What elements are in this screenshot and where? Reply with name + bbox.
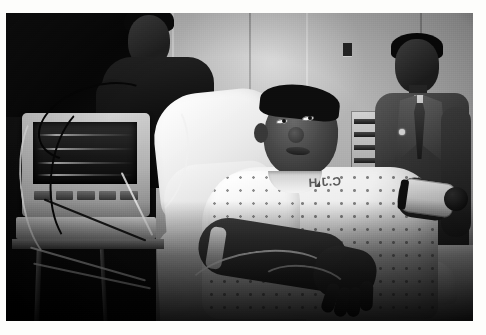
photograph: C.J.H [6,13,473,321]
ear [254,123,268,143]
wall-fixture-icon [343,43,352,56]
pupil [308,116,312,120]
pupil [282,119,286,123]
nose [288,127,304,143]
floor-shadow [6,201,473,321]
photo-page: C.J.H [0,0,486,335]
gown-stencil-text: C.J.H [308,174,342,190]
